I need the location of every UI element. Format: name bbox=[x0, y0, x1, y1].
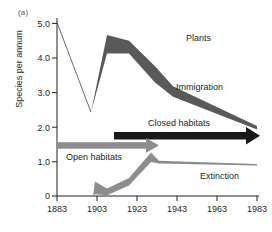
chart-plot-area bbox=[0, 0, 272, 232]
series-immigration-leader-line bbox=[57, 22, 91, 112]
annotation-plants: Plants bbox=[186, 33, 211, 43]
annotation-closed-habitats: Closed habitats bbox=[148, 118, 210, 128]
annotation-immigration: Immigration bbox=[176, 82, 223, 92]
open-habitats-arrow bbox=[57, 138, 159, 153]
closed-habitats-arrow bbox=[114, 127, 260, 144]
x-tick-marks bbox=[57, 196, 257, 201]
annotation-open-habitats: Open habitats bbox=[66, 152, 122, 162]
axis-lines bbox=[57, 18, 259, 196]
series-immigration-band bbox=[57, 22, 257, 129]
y-tick-marks bbox=[52, 23, 57, 196]
annotation-extinction: Extinction bbox=[200, 171, 239, 181]
figure-panel-a: (a) Species per annum 5.0 4.0 3.0 2.0 1.… bbox=[0, 0, 272, 232]
